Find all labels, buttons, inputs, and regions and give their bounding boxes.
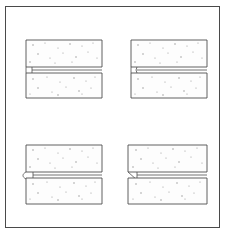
detail-top-right <box>131 40 207 98</box>
joint-detail-drawing <box>0 0 231 234</box>
upper-block-top-left <box>26 40 102 67</box>
lower-block-top-left <box>26 73 102 98</box>
figure-root: Concrete block joint edge profiles <box>0 0 231 234</box>
lower-block-bottom-left <box>26 178 102 204</box>
upper-block-top-right <box>131 40 207 67</box>
detail-top-left <box>26 40 102 98</box>
joint-notch-stepped-top-right <box>131 67 137 73</box>
lower-block-top-right <box>131 73 207 98</box>
joint-notch-square-top-left <box>26 67 32 73</box>
detail-bottom-right <box>128 145 207 204</box>
lower-block-bottom-right <box>128 178 207 204</box>
detail-bottom-left <box>23 145 102 204</box>
upper-block-bottom-left <box>26 145 102 172</box>
upper-block-bottom-right <box>128 145 207 172</box>
